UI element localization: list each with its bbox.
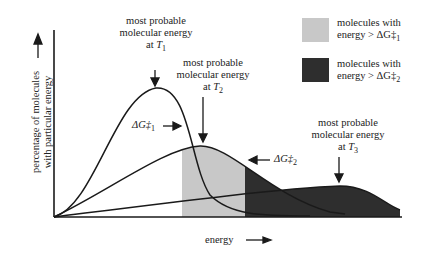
t2-peak-label: most probablemolecular energy at T2 xyxy=(163,57,263,97)
dg1-annotation: ΔG‡1 xyxy=(132,119,155,135)
legend-item-light: molecules with energy > ΔG‡1 xyxy=(337,17,401,45)
legend-item-dark: molecules with energy > ΔG‡2 xyxy=(337,58,401,86)
legend-swatch-dark xyxy=(302,58,329,82)
t3-peak-label: most probablemolecular energy at T3 xyxy=(298,117,398,157)
dg2-annotation: ΔG‡2 xyxy=(274,153,297,169)
legend-swatch-light xyxy=(302,18,329,42)
x-axis-label: energy xyxy=(205,234,233,246)
t1-peak-label: most probablemolecular energy at T1 xyxy=(106,15,206,55)
y-axis-label: percentage of moleculeswith particular e… xyxy=(30,42,54,202)
